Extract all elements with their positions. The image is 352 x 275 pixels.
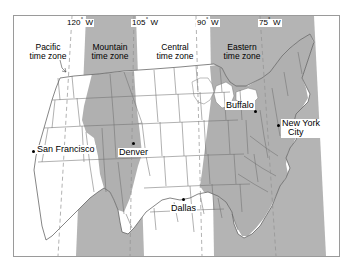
- meridian-105w-degree-symbol: °: [146, 16, 149, 22]
- meridian-120w-value: 120: [67, 18, 81, 27]
- meridian-label-120w: 120° W: [66, 19, 94, 27]
- city-label-denver: Denver: [118, 148, 149, 157]
- meridian-75w-degree-symbol: °: [268, 16, 271, 22]
- meridian-75w-value: 75: [259, 18, 268, 27]
- time-zone-label-central: Central time zone: [145, 43, 205, 61]
- denver-name: Denver: [119, 147, 148, 157]
- dallas-name: Dallas: [171, 203, 196, 213]
- pacific-label-line2: time zone: [20, 52, 76, 61]
- buffalo-name: Buffalo: [226, 100, 254, 110]
- meridian-105w-hemisphere: W: [150, 18, 158, 27]
- meridian-label-105w: 105° W: [131, 19, 159, 27]
- meridian-90w-degree-symbol: °: [206, 16, 209, 22]
- meridian-120w-degree-symbol: °: [81, 16, 84, 22]
- meridian-90w-hemisphere: W: [211, 18, 219, 27]
- time-zone-map-figure: 120° W 105° W 90° W 75° W Pacific time z…: [0, 0, 352, 275]
- city-label-buffalo: Buffalo: [225, 101, 255, 110]
- meridian-105w-value: 105: [132, 18, 146, 27]
- city-marker-new-york-city: [277, 124, 280, 127]
- new-york-city-name-line2: City: [288, 128, 320, 137]
- city-marker-denver: [132, 142, 135, 145]
- meridian-120w-hemisphere: W: [85, 18, 93, 27]
- meridian-label-90w: 90° W: [196, 19, 220, 27]
- map-frame: 120° W 105° W 90° W 75° W Pacific time z…: [13, 15, 340, 257]
- city-label-new-york-city: New York City: [281, 119, 321, 138]
- time-zone-label-eastern: Eastern time zone: [211, 43, 273, 61]
- city-label-dallas: Dallas: [170, 204, 197, 213]
- mountain-label-line2: time zone: [79, 52, 141, 61]
- central-label-line2: time zone: [145, 52, 205, 61]
- meridian-label-75w: 75° W: [258, 19, 282, 27]
- meridian-75w-hemisphere: W: [273, 18, 281, 27]
- time-zone-label-pacific: Pacific time zone: [20, 43, 76, 61]
- pacific-label-leader: [60, 60, 66, 72]
- city-marker-dallas: [182, 198, 185, 201]
- city-marker-san-francisco: [32, 150, 35, 153]
- city-label-san-francisco: San Francisco: [36, 145, 96, 154]
- eastern-label-line2: time zone: [211, 52, 273, 61]
- city-marker-buffalo: [254, 110, 257, 113]
- meridian-90w-value: 90: [197, 18, 206, 27]
- time-zone-label-mountain: Mountain time zone: [79, 43, 141, 61]
- san-francisco-name: San Francisco: [37, 144, 95, 154]
